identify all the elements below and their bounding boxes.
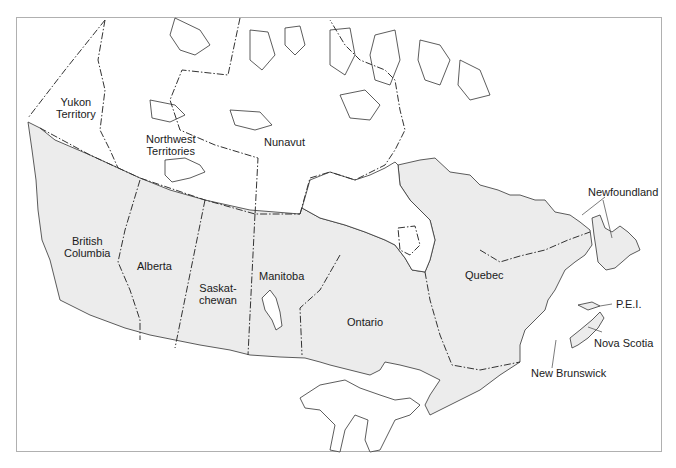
label-ontario: Ontario xyxy=(347,316,383,328)
label-new-brunswick-line1: New Brunswick xyxy=(531,367,606,379)
label-yukon-line1: Yukon xyxy=(56,96,96,108)
provinces-shape xyxy=(28,122,592,415)
label-yukon: Yukon Territory xyxy=(56,96,96,120)
label-quebec: Quebec xyxy=(465,269,504,281)
newfoundland-island xyxy=(592,215,640,270)
label-alberta-line1: Alberta xyxy=(137,260,172,272)
label-newfoundland-line1: Newfoundland xyxy=(588,186,658,198)
label-new-brunswick: New Brunswick xyxy=(531,367,606,379)
label-ontario-line1: Ontario xyxy=(347,316,383,328)
label-sask-line1: Saskat- xyxy=(199,282,237,294)
label-nova-scotia: Nova Scotia xyxy=(594,337,653,349)
label-british-columbia: British Columbia xyxy=(64,235,110,259)
label-yukon-line2: Territory xyxy=(56,108,96,120)
border-nwt-nunavut xyxy=(170,18,258,215)
arctic-islands xyxy=(150,18,490,182)
label-nwt-line2: Territories xyxy=(146,145,196,157)
leader-new-brunswick xyxy=(552,340,556,368)
label-bc-line1: British xyxy=(64,235,110,247)
pei-shape xyxy=(578,302,600,310)
border-yukon-nwt xyxy=(98,20,118,168)
label-alberta: Alberta xyxy=(137,260,172,272)
great-lakes xyxy=(300,380,420,452)
label-nunavut: Nunavut xyxy=(264,136,305,148)
leader-pei xyxy=(600,304,612,306)
label-nunavut-line1: Nunavut xyxy=(264,136,305,148)
label-quebec-line1: Quebec xyxy=(465,269,504,281)
label-northwest-territories: Northwest Territories xyxy=(146,133,196,157)
label-sask-line2: chewan xyxy=(199,294,237,306)
label-nwt-line1: Northwest xyxy=(146,133,196,145)
label-manitoba-line1: Manitoba xyxy=(259,270,304,282)
label-newfoundland: Newfoundland xyxy=(588,186,658,198)
label-manitoba: Manitoba xyxy=(259,270,304,282)
label-pei: P.E.I. xyxy=(616,298,641,310)
label-bc-line2: Columbia xyxy=(64,247,110,259)
label-saskatchewan: Saskat- chewan xyxy=(199,282,237,306)
canada-map xyxy=(0,0,676,468)
label-pei-line1: P.E.I. xyxy=(616,298,641,310)
label-nova-scotia-line1: Nova Scotia xyxy=(594,337,653,349)
